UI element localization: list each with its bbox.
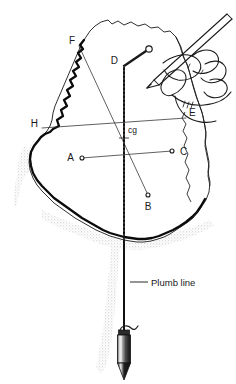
label-plumb-line: Plumb line [151,277,195,288]
figure-root: A B C D E F H cg Plumb line [0,0,236,384]
point-marker-A [80,156,84,160]
label-E: E [189,107,196,118]
label-F: F [69,35,75,46]
label-C: C [180,146,187,157]
label-B: B [145,201,152,212]
label-D: D [111,55,118,66]
pin-head-icon [146,46,152,52]
point-marker-C [170,149,174,153]
label-H: H [31,118,38,129]
label-cg: cg [128,125,137,135]
bob-body [118,335,131,363]
cg-plumb-line-figure: A B C D E F H cg Plumb line [0,0,236,384]
point-marker-B [146,193,150,197]
label-A: A [67,152,74,163]
bob-collar [119,330,130,335]
